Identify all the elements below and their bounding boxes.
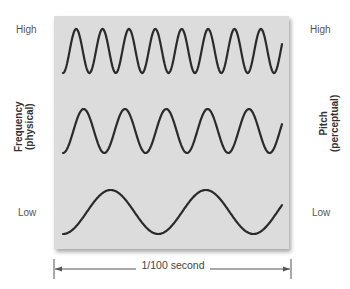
physical-label: (physical) — [24, 101, 35, 152]
right-low-label: Low — [312, 207, 330, 218]
waveforms — [0, 0, 350, 289]
high-frequency-wave — [63, 29, 282, 73]
left-high-label: High — [16, 24, 37, 35]
left-low-label: Low — [18, 207, 36, 218]
low-frequency-wave — [63, 190, 282, 234]
perceptual-label: (perceptual) — [329, 95, 340, 152]
time-span: 1/100 second — [53, 256, 293, 276]
time-span-label: 1/100 second — [136, 259, 209, 271]
pitch-label: Pitch — [318, 95, 329, 152]
frequency-axis-label: Frequency (physical) — [13, 101, 35, 152]
frequency-label: Frequency — [13, 101, 24, 152]
medium-frequency-wave — [63, 109, 282, 153]
right-high-label: High — [310, 24, 331, 35]
pitch-axis-label: Pitch (perceptual) — [318, 95, 340, 152]
